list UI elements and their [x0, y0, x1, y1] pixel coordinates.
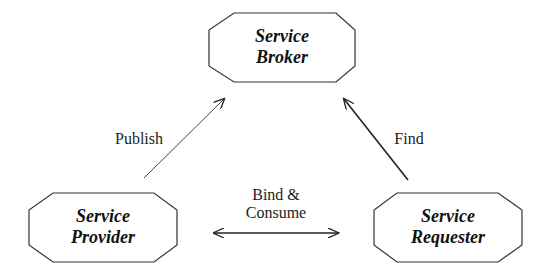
provider-node-label: Service Provider — [29, 206, 177, 248]
bind-label-line2: Consume — [226, 204, 326, 222]
broker-label-line2: Broker — [209, 47, 355, 68]
provider-label-line1: Service — [29, 206, 177, 227]
publish-label: Publish — [104, 130, 174, 148]
requester-node-label: Service Requester — [374, 206, 522, 248]
requester-label-line2: Requester — [374, 227, 522, 248]
broker-label-line1: Service — [209, 26, 355, 47]
provider-label-line2: Provider — [29, 227, 177, 248]
bind-consume-label: Bind & Consume — [226, 186, 326, 222]
find-label: Find — [384, 130, 434, 148]
requester-label-line1: Service — [374, 206, 522, 227]
bind-label-line1: Bind & — [226, 186, 326, 204]
broker-node-label: Service Broker — [209, 26, 355, 68]
